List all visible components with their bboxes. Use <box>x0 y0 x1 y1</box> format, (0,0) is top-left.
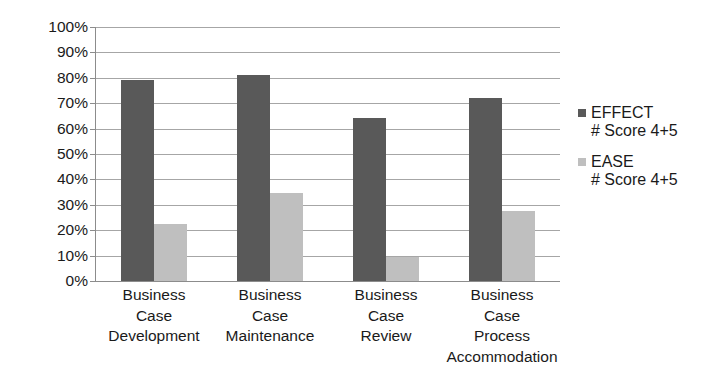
y-axis-tick-labels: 100%90%80%70%60%50%40%30%20%10%0% <box>0 27 88 281</box>
y-axis-tick-label: 90% <box>0 44 88 60</box>
category-label-line: Review <box>328 326 444 347</box>
category-label-line: Process <box>444 326 560 347</box>
category-label-line: Case <box>328 306 444 327</box>
y-axis-tick-label: 50% <box>0 146 88 162</box>
category-label-line: Case <box>444 306 560 327</box>
y-axis-tick-label: 70% <box>0 95 88 111</box>
legend-item[interactable]: EFFECT# Score 4+5 <box>578 104 728 140</box>
legend-series-sublabel: # Score 4+5 <box>591 122 728 140</box>
category-label-line: Accommodation <box>444 347 560 368</box>
bar-group <box>212 27 328 281</box>
bar-ease[interactable] <box>502 211 535 281</box>
legend-series-name: EFFECT <box>591 104 653 122</box>
bar-group <box>328 27 444 281</box>
chart-plot-wrapper: 100%90%80%70%60%50%40%30%20%10%0% Busine… <box>0 0 728 383</box>
legend-item[interactable]: EASE# Score 4+5 <box>578 153 728 189</box>
x-axis-baseline <box>96 281 560 282</box>
y-axis-tick <box>90 281 96 282</box>
y-axis-tick-label: 40% <box>0 171 88 187</box>
bar-effect[interactable] <box>121 80 154 281</box>
plot-area <box>96 27 560 281</box>
legend-swatch-icon <box>578 109 586 117</box>
x-axis-category-label: BusinessCaseReview <box>328 285 444 347</box>
bar-effect[interactable] <box>353 118 386 281</box>
category-label-line: Business <box>444 285 560 306</box>
legend-swatch-icon <box>578 158 586 166</box>
bar-group <box>96 27 212 281</box>
y-axis-tick-label: 100% <box>0 19 88 35</box>
legend-item-row: EFFECT <box>578 104 728 122</box>
bar-ease[interactable] <box>154 224 187 281</box>
legend-item-row: EASE <box>578 153 728 171</box>
y-axis-tick-label: 30% <box>0 197 88 213</box>
y-axis-tick-label: 80% <box>0 70 88 86</box>
category-label-line: Business <box>212 285 328 306</box>
chart-legend: EFFECT# Score 4+5EASE# Score 4+5 <box>578 104 728 202</box>
bar-group <box>444 27 560 281</box>
x-axis-category-label: BusinessCaseMaintenance <box>212 285 328 347</box>
category-label-line: Maintenance <box>212 326 328 347</box>
category-label-line: Case <box>96 306 212 327</box>
category-label-line: Case <box>212 306 328 327</box>
legend-series-name: EASE <box>591 153 634 171</box>
x-axis-category-label: BusinessCaseProcessAccommodation <box>444 285 560 367</box>
x-axis-category-label: BusinessCaseDevelopment <box>96 285 212 347</box>
bar-ease[interactable] <box>386 257 419 281</box>
category-label-line: Business <box>96 285 212 306</box>
category-label-line: Business <box>328 285 444 306</box>
bar-effect[interactable] <box>469 98 502 281</box>
y-axis-tick-label: 10% <box>0 248 88 264</box>
bars-layer <box>96 27 560 281</box>
legend-series-sublabel: # Score 4+5 <box>591 171 728 189</box>
bar-ease[interactable] <box>270 193 303 281</box>
y-axis-tick-label: 0% <box>0 273 88 289</box>
y-axis-tick-label: 60% <box>0 121 88 137</box>
category-label-line: Development <box>96 326 212 347</box>
bar-chart: 100%90%80%70%60%50%40%30%20%10%0% Busine… <box>0 0 728 383</box>
y-axis-tick-label: 20% <box>0 222 88 238</box>
bar-effect[interactable] <box>237 75 270 281</box>
x-axis-category-labels: BusinessCaseDevelopmentBusinessCaseMaint… <box>96 285 560 381</box>
